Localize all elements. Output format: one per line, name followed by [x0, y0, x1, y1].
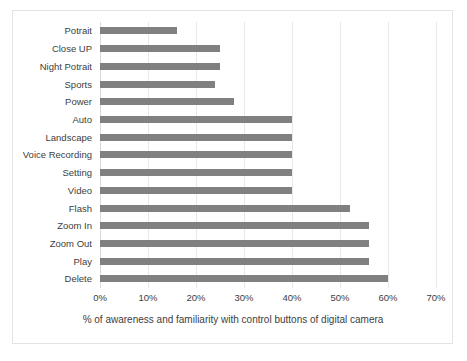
category-label-zoom-in: Zoom In	[13, 217, 98, 235]
bar-flash	[100, 205, 350, 212]
bar-night-potrait	[100, 63, 220, 70]
bar-row	[100, 252, 436, 270]
chart-container: PotraitClose UPNight PotraitSportsPowerA…	[12, 10, 453, 344]
bar-video	[100, 187, 292, 194]
x-tick-label: 40%	[282, 292, 301, 303]
category-label-zoom-out: Zoom Out	[13, 235, 98, 253]
category-label-voice-recording: Voice Recording	[13, 146, 98, 164]
plot-wrapper: PotraitClose UPNight PotraitSportsPowerA…	[13, 11, 452, 343]
bar-row	[100, 217, 436, 235]
bar-setting	[100, 169, 292, 176]
gridline-70pct	[436, 22, 437, 288]
bar-series	[100, 22, 436, 288]
x-tick-label: 10%	[138, 292, 157, 303]
category-label-close-up: Close UP	[13, 40, 98, 58]
category-axis-labels: PotraitClose UPNight PotraitSportsPowerA…	[13, 22, 98, 288]
x-axis-title: % of awareness and familiarity with cont…	[53, 313, 413, 327]
bar-close-up	[100, 45, 220, 52]
bar-sports	[100, 81, 215, 88]
bar-row	[100, 235, 436, 253]
bar-row	[100, 146, 436, 164]
bar-row	[100, 181, 436, 199]
bar-row	[100, 40, 436, 58]
x-tick-label: 30%	[234, 292, 253, 303]
bar-play	[100, 258, 369, 265]
x-tick-label: 70%	[426, 292, 445, 303]
bar-row	[100, 57, 436, 75]
category-label-sports: Sports	[13, 75, 98, 93]
category-label-play: Play	[13, 252, 98, 270]
category-label-video: Video	[13, 181, 98, 199]
category-label-setting: Setting	[13, 164, 98, 182]
bar-zoom-in	[100, 222, 369, 229]
x-axis-tick-labels: 0%10%20%30%40%50%60%70%	[100, 292, 436, 306]
bar-power	[100, 98, 234, 105]
bar-row	[100, 22, 436, 40]
bar-potrait	[100, 27, 177, 34]
plot-area	[100, 22, 436, 288]
category-label-flash: Flash	[13, 199, 98, 217]
category-label-auto: Auto	[13, 111, 98, 129]
category-label-landscape: Landscape	[13, 128, 98, 146]
bar-row	[100, 111, 436, 129]
bar-row	[100, 164, 436, 182]
x-tick-label: 50%	[330, 292, 349, 303]
category-label-delete: Delete	[13, 270, 98, 288]
bar-zoom-out	[100, 240, 369, 247]
bar-row	[100, 199, 436, 217]
bar-landscape	[100, 134, 292, 141]
x-tick-label: 0%	[93, 292, 107, 303]
x-tick-label: 20%	[186, 292, 205, 303]
bar-auto	[100, 116, 292, 123]
bar-voice-recording	[100, 151, 292, 158]
category-label-power: Power	[13, 93, 98, 111]
bar-row	[100, 270, 436, 288]
bar-row	[100, 75, 436, 93]
category-label-night-potrait: Night Potrait	[13, 57, 98, 75]
x-tick-label: 60%	[378, 292, 397, 303]
category-label-potrait: Potrait	[13, 22, 98, 40]
bar-row	[100, 128, 436, 146]
bar-delete	[100, 275, 388, 282]
bar-row	[100, 93, 436, 111]
